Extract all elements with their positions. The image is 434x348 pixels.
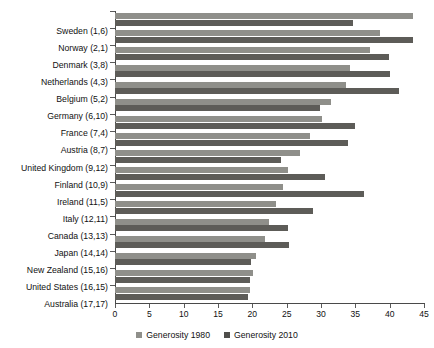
y-axis-tick (110, 45, 115, 46)
bar-2010 (115, 37, 413, 43)
chart-legend: Generosity 1980 Generosity 2010 (0, 330, 434, 340)
category-label: United Kingdom (9,12) (21, 163, 108, 173)
x-axis-tick-label: 25 (282, 309, 292, 319)
y-axis-tick (110, 165, 115, 166)
x-axis-line (115, 303, 425, 304)
bar-group (115, 148, 424, 165)
bar-group (115, 234, 424, 251)
bar-1980 (115, 167, 288, 173)
bar-group (115, 251, 424, 268)
x-axis-tick-label: 20 (248, 309, 258, 319)
bar-2010 (115, 174, 325, 180)
category-label-column: Sweden (1,6)Norway (2,1)Denmark (3,8)Net… (0, 11, 112, 302)
x-axis-tick-label: 35 (351, 309, 361, 319)
category-label: New Zealand (15,16) (27, 265, 108, 275)
category-label: Belgium (5,2) (56, 94, 108, 104)
bar-group (115, 165, 424, 182)
bar-group (115, 131, 424, 148)
x-axis-tick (149, 304, 150, 308)
x-axis-tick (321, 304, 322, 308)
bar-2010 (115, 123, 355, 129)
bar-1980 (115, 201, 276, 207)
x-axis-tick (252, 304, 253, 308)
bar-group (115, 62, 424, 79)
y-axis-tick (110, 11, 115, 12)
bar-group (115, 97, 424, 114)
bar-2010 (115, 191, 364, 197)
x-axis-tick (424, 304, 425, 308)
y-axis-tick (110, 28, 115, 29)
x-axis-tick (218, 304, 219, 308)
category-label: Ireland (11,5) (57, 197, 108, 207)
generosity-bar-chart: Sweden (1,6)Norway (2,1)Denmark (3,8)Net… (0, 0, 434, 348)
bar-1980 (115, 219, 269, 225)
x-axis-tick (184, 304, 185, 308)
bar-group (115, 216, 424, 233)
plot-area (115, 11, 424, 302)
y-axis-tick (110, 114, 115, 115)
bar-group (115, 285, 424, 302)
bar-1980 (115, 270, 253, 276)
x-axis-tick-label: 15 (213, 309, 223, 319)
legend-item-generosity-2010: Generosity 2010 (224, 330, 298, 340)
bar-2010 (115, 242, 289, 248)
bar-1980 (115, 236, 265, 242)
x-axis-tick-label: 5 (147, 309, 152, 319)
legend-label-2010: Generosity 2010 (234, 330, 298, 340)
bar-1980 (115, 150, 300, 156)
bar-2010 (115, 88, 399, 94)
legend-label-1980: Generosity 1980 (146, 330, 210, 340)
bar-1980 (115, 65, 350, 71)
bar-group (115, 28, 424, 45)
bar-1980 (115, 253, 256, 259)
category-label: Germany (6,10) (47, 111, 108, 121)
y-axis-tick (110, 148, 115, 149)
y-axis-tick (110, 285, 115, 286)
x-axis-tick-label: 40 (385, 309, 395, 319)
y-axis-tick (110, 131, 115, 132)
bar-group (115, 199, 424, 216)
bar-2010 (115, 71, 390, 77)
x-axis-tick (355, 304, 356, 308)
legend-item-generosity-1980: Generosity 1980 (136, 330, 210, 340)
legend-swatch-icon-1980 (136, 332, 142, 338)
category-label: Italy (12,11) (63, 214, 108, 224)
bar-1980 (115, 82, 346, 88)
bar-group (115, 182, 424, 199)
category-label: Austria (8,7) (61, 145, 108, 155)
bar-group (115, 11, 424, 28)
y-axis-tick (110, 216, 115, 217)
category-label: Denmark (3,8) (52, 60, 108, 70)
bar-group (115, 114, 424, 131)
category-label: United States (16,15) (26, 282, 108, 292)
category-label: Netherlands (4,3) (41, 77, 108, 87)
category-label: Japan (14,14) (54, 248, 108, 258)
bar-2010 (115, 277, 250, 283)
bar-2010 (115, 140, 348, 146)
bar-1980 (115, 30, 380, 36)
bar-1980 (115, 47, 370, 53)
legend-swatch-icon-2010 (224, 332, 230, 338)
category-label: France (7,4) (61, 128, 108, 138)
y-axis-tick (110, 182, 115, 183)
bar-2010 (115, 20, 353, 26)
bar-2010 (115, 54, 389, 60)
bar-1980 (115, 184, 283, 190)
y-axis-tick (110, 79, 115, 80)
bar-1980 (115, 116, 322, 122)
bar-2010 (115, 208, 313, 214)
x-axis-tick (287, 304, 288, 308)
bar-1980 (115, 287, 250, 293)
y-axis-tick (110, 199, 115, 200)
bar-2010 (115, 294, 248, 300)
x-axis-tick-label: 30 (316, 309, 326, 319)
y-axis-tick (110, 62, 115, 63)
x-axis-tick (115, 304, 116, 308)
bar-1980 (115, 133, 310, 139)
x-axis-tick-label: 45 (419, 309, 429, 319)
category-label: Canada (13,13) (48, 231, 108, 241)
x-axis-tick (390, 304, 391, 308)
x-axis-tick-label: 0 (113, 309, 118, 319)
bar-1980 (115, 13, 413, 19)
bar-2010 (115, 259, 251, 265)
